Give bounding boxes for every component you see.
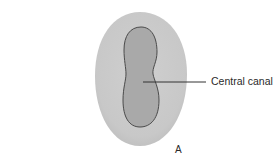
panel-letter: A xyxy=(175,144,182,155)
central-canal-shape xyxy=(123,27,159,127)
central-canal-label: Central canal xyxy=(211,75,273,87)
spinal-cord-cross-section-diagram: Central canal A xyxy=(0,0,275,162)
